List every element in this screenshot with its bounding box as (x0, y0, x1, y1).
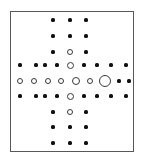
scatter-marker (43, 63, 46, 66)
scatter-marker (124, 94, 127, 97)
scatter-marker (68, 125, 71, 128)
figure-root (0, 0, 142, 167)
scatter-marker (55, 94, 58, 97)
scatter-marker (82, 63, 85, 66)
scatter-marker (51, 18, 54, 21)
scatter-marker (17, 78, 23, 84)
scatter-marker (51, 110, 54, 113)
scatter-marker (82, 94, 85, 97)
scatter-marker (51, 50, 54, 53)
scatter-marker (84, 125, 87, 128)
scatter-marker (43, 94, 46, 97)
scatter-marker (95, 63, 98, 66)
scatter-marker-layer (0, 0, 142, 167)
scatter-marker (45, 78, 51, 84)
scatter-marker (67, 93, 74, 100)
scatter-marker (109, 94, 112, 97)
scatter-marker (68, 34, 71, 37)
scatter-marker (55, 63, 58, 66)
scatter-marker (68, 141, 71, 144)
scatter-marker (84, 141, 87, 144)
scatter-marker (68, 18, 71, 21)
scatter-marker (72, 77, 80, 85)
scatter-marker (67, 49, 73, 55)
scatter-marker (84, 34, 87, 37)
scatter-marker (109, 63, 112, 66)
scatter-marker (87, 78, 93, 84)
scatter-marker (51, 125, 54, 128)
scatter-marker (117, 79, 120, 82)
scatter-marker (51, 141, 54, 144)
scatter-marker (127, 79, 130, 82)
scatter-marker (67, 109, 73, 115)
scatter-marker (99, 75, 111, 87)
scatter-marker (95, 94, 98, 97)
scatter-marker (18, 63, 21, 66)
scatter-marker (84, 18, 87, 21)
scatter-marker (34, 63, 37, 66)
scatter-marker (51, 34, 54, 37)
scatter-marker (58, 78, 64, 84)
scatter-marker (84, 50, 87, 53)
scatter-marker (18, 94, 21, 97)
scatter-marker (84, 110, 87, 113)
scatter-marker (67, 62, 74, 69)
scatter-marker (34, 94, 37, 97)
scatter-marker (31, 78, 37, 84)
scatter-marker (124, 63, 127, 66)
